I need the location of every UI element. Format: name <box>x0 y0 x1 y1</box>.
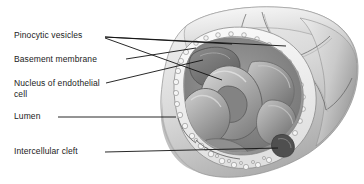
label-nucleus-of-endothelial-cell-line2: cell <box>14 89 27 100</box>
figure-canvas: Pinocytic vesicles Basement membrane Nuc… <box>0 0 364 184</box>
label-pinocytic-vesicles: Pinocytic vesicles <box>14 30 82 41</box>
intercellular-cleft <box>271 134 294 157</box>
label-lumen: Lumen <box>14 111 41 122</box>
label-basement-membrane: Basement membrane <box>14 54 97 65</box>
label-nucleus-of-endothelial-cell: Nucleus of endothelial <box>14 78 100 89</box>
label-intercellular-cleft: Intercellular cleft <box>14 146 78 157</box>
